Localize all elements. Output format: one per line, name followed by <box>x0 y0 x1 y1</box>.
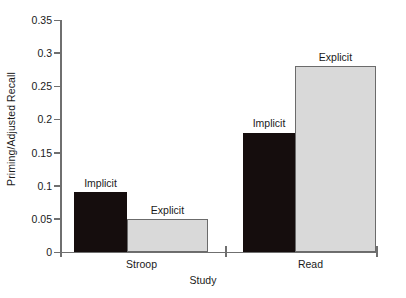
y-tick-label: 0.05 <box>0 213 52 225</box>
y-tick-label: 0.1 <box>0 180 52 192</box>
bar-label-stroop-implicit: Implicit <box>56 177 146 189</box>
bar-stroop-implicit <box>74 192 127 252</box>
bar-stroop-explicit <box>127 219 208 252</box>
bar-read-implicit <box>243 133 295 252</box>
y-tick-mark <box>54 86 62 88</box>
y-tick-mark <box>54 119 62 121</box>
plot-area: 0 0.05 0.1 0.15 0.2 0.25 0.3 0.35 Implic… <box>0 0 406 298</box>
x-tick-mark-left <box>60 246 62 257</box>
x-tick-mark-middle <box>225 246 227 257</box>
y-tick-label: 0.25 <box>0 80 52 92</box>
y-tick-label: 0 <box>0 246 52 258</box>
bar-label-read-explicit: Explicit <box>291 51 381 63</box>
y-tick-mark <box>54 20 62 22</box>
x-tick-label-read: Read <box>266 258 356 270</box>
bar-label-stroop-explicit: Explicit <box>123 204 213 216</box>
y-tick-mark <box>54 52 62 54</box>
y-tick-label: 0.3 <box>0 47 52 59</box>
x-tick-label-stroop: Stroop <box>97 258 187 270</box>
bar-chart: Priming/Adjusted Recall 0 0.05 0.1 0.15 … <box>0 0 406 298</box>
y-tick-label: 0.15 <box>0 147 52 159</box>
y-tick-mark <box>54 218 62 220</box>
x-tick-mark-right <box>376 246 378 257</box>
y-tick-label: 0.2 <box>0 113 52 125</box>
y-tick-label: 0.35 <box>0 14 52 26</box>
bar-read-explicit <box>295 66 376 252</box>
x-axis-title: Study <box>0 274 406 286</box>
y-tick-mark <box>54 152 62 154</box>
